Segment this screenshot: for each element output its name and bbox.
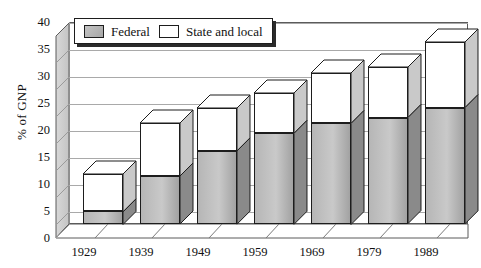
legend-label-state-local: State and local	[186, 25, 263, 38]
y-tick-5: 5	[24, 205, 50, 218]
x-tick-1939: 1939	[113, 246, 169, 259]
legend-label-federal: Federal	[111, 25, 150, 38]
bar-segment-state-local-1929	[83, 174, 123, 212]
bar-side-faces-1959	[294, 80, 309, 226]
bar-segment-state-local-1989	[425, 42, 465, 108]
y-tick-35: 35	[24, 43, 50, 56]
state-local-swatch-icon	[159, 25, 179, 38]
bar-segment-federal-1939	[140, 176, 180, 224]
bar-1949	[197, 108, 237, 224]
bar-segment-state-local-1949	[197, 108, 237, 151]
bar-segment-federal-1989	[425, 108, 465, 224]
bar-segment-federal-1979	[368, 118, 408, 224]
bars-layer	[56, 22, 468, 238]
bar-side-faces-1939	[180, 110, 195, 226]
legend-item-state-local: State and local	[159, 25, 263, 38]
federal-swatch-icon	[84, 25, 104, 38]
x-tick-1959: 1959	[227, 246, 283, 259]
y-tick-15: 15	[24, 151, 50, 164]
bar-1989	[425, 42, 465, 224]
y-tick-30: 30	[24, 70, 50, 83]
bar-1979	[368, 67, 408, 224]
y-tick-25: 25	[24, 97, 50, 110]
y-tick-10: 10	[24, 178, 50, 191]
bar-segment-federal-1959	[254, 133, 294, 224]
y-axis-tick-labels: 40 35 30 25 20 15 10 5 0	[22, 0, 50, 268]
bar-segment-federal-1969	[311, 123, 351, 224]
x-tick-1969: 1969	[284, 246, 340, 259]
bar-segment-state-local-1979	[368, 67, 408, 118]
y-tick-0: 0	[24, 232, 50, 245]
x-tick-1929: 1929	[56, 246, 112, 259]
bar-segment-federal-1949	[197, 151, 237, 224]
x-tick-1949: 1949	[170, 246, 226, 259]
bar-1929	[83, 174, 123, 225]
x-tick-1979: 1979	[341, 246, 397, 259]
legend-item-federal: Federal	[84, 25, 150, 38]
bar-segment-federal-1929	[83, 211, 123, 224]
bar-side-faces-1989	[465, 29, 480, 226]
bar-side-faces-1969	[351, 60, 366, 227]
bar-segment-state-local-1969	[311, 73, 351, 124]
y-tick-20: 20	[24, 124, 50, 137]
chart-legend: Federal State and local	[74, 18, 273, 44]
y-tick-40: 40	[24, 16, 50, 29]
bar-side-faces-1949	[237, 95, 252, 226]
bar-side-faces-1979	[408, 54, 423, 226]
bar-1959	[254, 93, 294, 224]
bar-segment-state-local-1939	[140, 123, 180, 176]
chart-container: % of GNP 40 35 30 25 20 15 10 5 0	[0, 0, 481, 268]
bar-1969	[311, 73, 351, 225]
bar-1939	[140, 123, 180, 224]
plot-area	[56, 22, 468, 238]
x-tick-1989: 1989	[398, 246, 454, 259]
bar-segment-state-local-1959	[254, 93, 294, 133]
